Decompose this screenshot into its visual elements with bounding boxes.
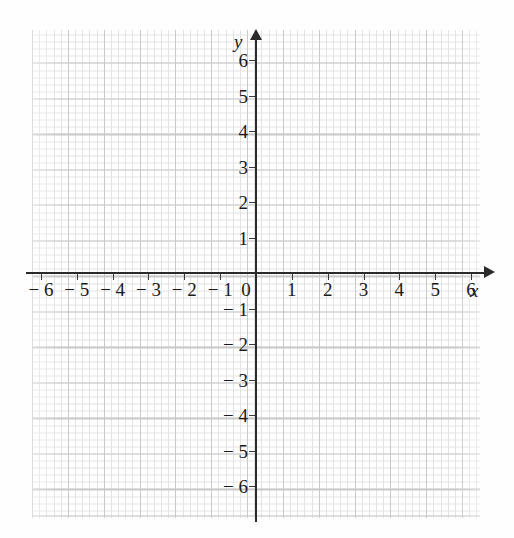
x-tick-label: 0 <box>241 280 251 299</box>
y-tick-label: − 2 <box>223 335 248 354</box>
x-tick-label: 1 <box>287 280 297 299</box>
x-tick-label: 4 <box>395 280 405 299</box>
y-tick-mark <box>249 415 255 416</box>
x-tick-label: − 4 <box>100 280 125 299</box>
y-tick-label: − 6 <box>223 477 248 496</box>
x-tick-label: − 2 <box>172 280 197 299</box>
y-tick-mark <box>249 96 255 97</box>
x-tick-label: 2 <box>323 280 333 299</box>
y-axis-arrow-icon <box>250 29 262 40</box>
y-tick-label: − 4 <box>223 406 248 425</box>
y-tick-mark <box>249 238 255 239</box>
y-tick-mark <box>249 486 255 487</box>
x-tick-label: 6 <box>466 280 476 299</box>
y-tick-mark <box>249 309 255 310</box>
y-tick-mark <box>249 131 255 132</box>
x-axis-line <box>26 272 490 274</box>
y-tick-mark <box>249 451 255 452</box>
x-tick-label: − 3 <box>136 280 161 299</box>
y-tick-mark <box>249 60 255 61</box>
y-tick-label: − 3 <box>223 370 248 389</box>
x-tick-label: − 5 <box>64 280 89 299</box>
y-tick-label: 2 <box>239 193 249 212</box>
y-tick-label: 6 <box>239 51 249 70</box>
x-axis-arrow-icon <box>484 266 495 278</box>
y-tick-mark <box>249 202 255 203</box>
y-axis-line <box>255 38 257 522</box>
y-tick-label: − 1 <box>223 299 248 318</box>
x-tick-label: − 1 <box>208 280 233 299</box>
y-tick-label: 4 <box>239 122 249 141</box>
y-tick-label: − 5 <box>223 441 248 460</box>
y-tick-label: 1 <box>239 228 249 247</box>
y-tick-mark <box>249 344 255 345</box>
y-tick-mark <box>249 380 255 381</box>
x-tick-label: − 6 <box>28 280 53 299</box>
y-tick-label: 3 <box>239 157 249 176</box>
coordinate-grid-figure: x y − 6− 5− 4− 3− 2− 10123456− 6− 5− 4− … <box>0 0 514 538</box>
y-tick-mark <box>249 167 255 168</box>
x-tick-label: 5 <box>430 280 440 299</box>
x-tick-label: 3 <box>359 280 369 299</box>
y-tick-label: 5 <box>239 86 249 105</box>
